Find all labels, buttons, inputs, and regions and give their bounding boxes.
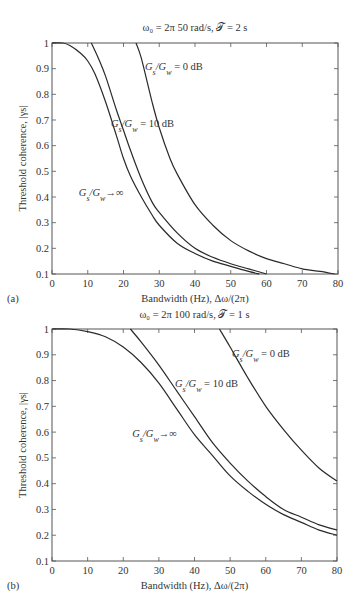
series-line-10db [91,43,266,274]
curve-annotation: Gs/Gw = 0 dB [145,61,203,77]
y-tick-label: 0.7 [36,401,49,412]
panel-label: (a) [7,293,19,305]
y-tick-label: 0.6 [36,427,49,438]
panel-label: (b) [7,580,20,592]
x-tick-label: 80 [333,278,344,289]
x-tick-label: 40 [190,278,201,289]
x-tick-label: 60 [261,565,272,576]
y-tick-label: 0.2 [36,243,49,254]
x-tick-label: 10 [82,565,93,576]
chart-title: ω₀ = 2π 100 rad/s, 𝒯 = 1 s [139,309,249,320]
x-tick-label: 10 [83,278,94,289]
y-tick-label: 0.1 [36,269,49,280]
panel-b-plot: ω₀ = 2π 100 rad/s, 𝒯 = 1 s01020304050607… [7,309,342,592]
y-tick-label: 0.3 [36,504,49,515]
x-tick-label: 70 [297,278,308,289]
y-tick-label: 0.1 [36,556,49,567]
y-tick-label: 0.9 [36,63,49,74]
x-tick-label: 30 [154,278,165,289]
y-axis-label: Threshold coherence, |γs| [17,392,28,498]
x-tick-label: 50 [226,278,237,289]
y-tick-label: 0.2 [36,530,49,541]
y-tick-label: 0.6 [36,140,49,151]
y-tick-label: 0.8 [36,89,49,100]
y-tick-label: 1 [44,324,49,335]
y-tick-label: 0.5 [36,452,49,463]
y-axis-label: Threshold coherence, |γs| [17,106,28,212]
curve-annotation: Gs/Gw→∞ [79,187,124,203]
x-tick-label: 20 [118,565,129,576]
y-tick-label: 0.5 [36,166,49,177]
chart-title: ω₀ = 2π 50 rad/s, 𝒯 = 2 s [143,22,248,33]
x-axis-label: Bandwidth (Hz), Δω/(2π) [141,580,249,592]
figure: ω₀ = 2π 50 rad/s, 𝒯 = 2 s010203040506070… [0,0,361,610]
x-tick-label: 70 [296,565,307,576]
y-tick-label: 1 [44,38,49,49]
plot-frame [52,329,337,561]
panel-a-plot: ω₀ = 2π 50 rad/s, 𝒯 = 2 s010203040506070… [7,22,343,305]
y-tick-label: 0.8 [36,375,49,386]
y-tick-label: 0.4 [36,192,50,203]
x-tick-label: 50 [225,565,236,576]
x-tick-label: 30 [154,565,165,576]
x-tick-label: 20 [118,278,129,289]
y-tick-label: 0.7 [36,115,49,126]
x-tick-label: 60 [261,278,272,289]
x-tick-label: 80 [332,565,343,576]
x-tick-label: 0 [49,565,54,576]
series-line-0db [136,43,334,274]
x-tick-label: 40 [189,565,200,576]
y-tick-label: 0.4 [36,478,50,489]
x-axis-label: Bandwidth (Hz), Δω/(2π) [141,293,249,305]
plot-frame [52,43,338,274]
curve-annotation: Gs/Gw→∞ [132,428,177,444]
y-tick-label: 0.9 [36,349,49,360]
curve-annotation: Gs/Gw = 0 dB [232,348,290,364]
y-tick-label: 0.3 [36,217,49,228]
series-line-infinite-snr [52,329,337,535]
x-tick-label: 0 [49,278,54,289]
curve-annotation: Gs/Gw = 10 dB [175,378,238,394]
